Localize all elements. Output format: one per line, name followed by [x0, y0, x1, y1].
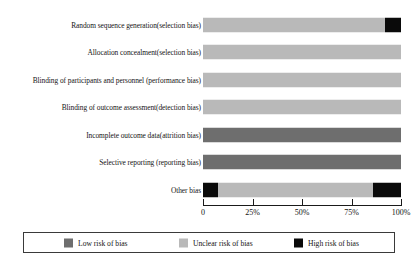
bias-bar-segment — [203, 72, 401, 87]
bias-bar — [203, 17, 401, 32]
bias-bar-segment — [218, 182, 373, 197]
legend-item: Low risk of bias — [64, 238, 128, 247]
legend-label: Low risk of bias — [78, 238, 128, 247]
bias-row-label: Blinding of participants and personnel (… — [33, 75, 201, 84]
bias-bar — [203, 155, 401, 170]
bias-bar — [203, 182, 401, 197]
bias-row-label: Selective reporting (reporting bias) — [99, 158, 201, 167]
x-axis-tick-label: 100% — [392, 208, 411, 218]
x-axis-tick — [203, 199, 204, 206]
bias-bar — [203, 100, 401, 115]
bias-bar-segment — [203, 127, 401, 142]
bias-bar-segment — [373, 182, 401, 197]
bias-row: Selective reporting (reporting bias) — [0, 153, 416, 172]
legend-swatch-icon — [294, 238, 303, 247]
bias-bar-segment — [385, 17, 401, 32]
bias-bar-segment — [203, 45, 401, 60]
legend-item: High risk of bias — [294, 238, 359, 247]
risk-of-bias-chart: Random sequence generation(selection bia… — [0, 0, 416, 273]
x-axis-tick-label: 75% — [344, 208, 359, 218]
bias-bar-segment — [203, 100, 401, 115]
bias-row-label: Allocation concealment(selection bias) — [88, 48, 201, 57]
x-axis-tick-label: 50% — [295, 208, 310, 218]
x-axis-tick-label: 0 — [201, 208, 205, 218]
bias-row: Allocation concealment(selection bias) — [0, 43, 416, 62]
bias-row: Blinding of outcome assessment(detection… — [0, 98, 416, 117]
bias-row-label: Incomplete outcome data(attrition bias) — [86, 130, 201, 139]
x-axis-tick — [401, 199, 402, 206]
bias-row: Blinding of participants and personnel (… — [0, 70, 416, 89]
legend-label: Unclear risk of bias — [193, 238, 253, 247]
bias-bar — [203, 45, 401, 60]
bias-bar-segment — [203, 155, 401, 170]
bias-bar-segment — [203, 182, 218, 197]
legend-label: High risk of bias — [308, 238, 359, 247]
plot-area: Random sequence generation(selection bia… — [0, 10, 416, 205]
bias-row-label: Blinding of outcome assessment(detection… — [62, 103, 201, 112]
bias-row: Other bias — [0, 180, 416, 199]
bias-row: Incomplete outcome data(attrition bias) — [0, 125, 416, 144]
legend-swatch-icon — [179, 238, 188, 247]
legend-item: Unclear risk of bias — [179, 238, 253, 247]
x-axis-tick — [253, 199, 254, 206]
bias-row-label: Random sequence generation(selection bia… — [71, 20, 201, 29]
bias-bar-segment — [203, 17, 385, 32]
bias-bar — [203, 72, 401, 87]
x-axis-tick — [302, 199, 303, 206]
chart-legend: Low risk of biasUnclear risk of biasHigh… — [23, 232, 395, 253]
bias-row-label: Other bias — [171, 185, 201, 194]
bias-bar — [203, 127, 401, 142]
figure-caption — [4, 262, 412, 271]
bias-row: Random sequence generation(selection bia… — [0, 15, 416, 34]
x-axis-tick-label: 25% — [245, 208, 260, 218]
x-axis-tick — [352, 199, 353, 206]
legend-swatch-icon — [64, 238, 73, 247]
